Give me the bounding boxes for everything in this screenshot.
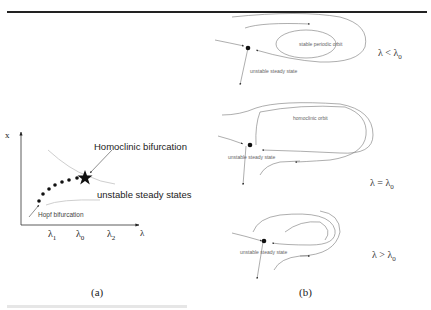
caption-b: (b): [299, 286, 312, 298]
steady-state-dot-3: [262, 239, 267, 244]
condition-lt: λ < λ0: [378, 47, 402, 61]
x-axis-label: λ: [140, 228, 144, 238]
unstable-steady-states-label: unstable steady states: [97, 189, 192, 200]
condition-gt: λ > λ0: [372, 249, 396, 263]
homoclinic-bifurcation-label: Homoclinic bifurcation: [94, 141, 187, 152]
steady-state-dot-2: [248, 143, 253, 148]
x-tick-lambda0: λ0: [76, 228, 84, 242]
periodic-orbit-branch: [37, 176, 79, 203]
figure-graphics: [0, 0, 431, 310]
steady-state-label-3: unstable steady state: [240, 249, 287, 255]
steady-state-label-1: unstable steady state: [250, 68, 297, 74]
unstable-branch-lower: [46, 200, 100, 205]
homoclinic-pointer: [90, 150, 112, 173]
stable-periodic-orbit-label: stable periodic orbit: [299, 41, 342, 47]
steady-state-label-2: unstable steady state: [228, 154, 275, 160]
homoclinic-orbit-label: homoclinic orbit: [293, 115, 328, 121]
panel-b-row3: [232, 211, 340, 279]
y-axis-label: x: [5, 130, 10, 140]
condition-eq: λ = λ0: [370, 177, 394, 191]
hopf-bifurcation-label: Hopf bifurcation: [38, 211, 84, 218]
unstable-branch-upper: [48, 150, 115, 184]
x-tick-lambda1: λ1: [48, 228, 56, 242]
steady-state-dot-1: [246, 46, 251, 51]
x-tick-lambda2: λ2: [107, 228, 115, 242]
footer-text-faint: [7, 305, 187, 308]
caption-a: (a): [91, 286, 103, 298]
panel-b-row1: [215, 14, 366, 86]
